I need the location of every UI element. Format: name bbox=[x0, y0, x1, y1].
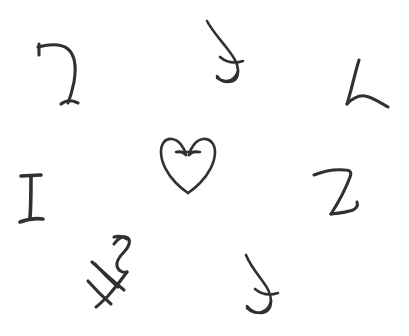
paper-background bbox=[0, 0, 409, 336]
glyph-sheet-canvas bbox=[0, 0, 409, 336]
glyph-drawing-surface bbox=[0, 0, 409, 336]
